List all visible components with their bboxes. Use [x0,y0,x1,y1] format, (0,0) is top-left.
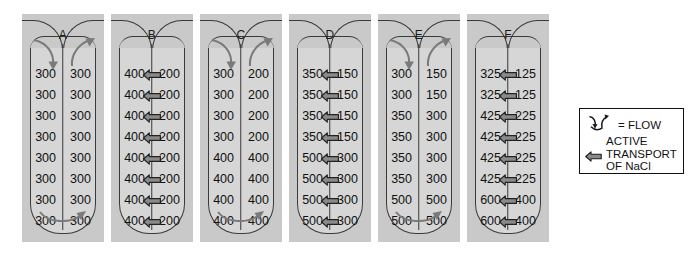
interstitium-value: 425 [467,152,508,165]
tubule-value: 125 [508,89,549,102]
tubule-value: 150 [419,89,460,102]
legend-flow-entry: = FLOW [586,114,661,135]
tubule-value: 300 [63,131,104,144]
interstitium-value: 500 [378,194,419,207]
concentration-row: 500500 [378,190,460,211]
interstitium-value: 400 [111,215,152,228]
interstitium-value: 300 [22,89,63,102]
tubule-value: 225 [508,152,549,165]
tubule-value: 300 [63,215,104,228]
interstitium-value: 350 [289,131,330,144]
concentration-row: 400200 [111,169,193,190]
interstitium-value: 400 [111,173,152,186]
interstitium-value: 500 [289,152,330,165]
concentration-row: 350300 [378,127,460,148]
tubule-value: 300 [419,173,460,186]
legend-active-transport-entry: ACTIVE TRANSPORT OF NaCl [585,135,677,173]
concentration-row: 500500 [378,211,460,232]
concentration-row: 425225 [467,169,549,190]
interstitium-value: 325 [467,68,508,81]
concentration-row: 325125 [467,85,549,106]
osmotic-gradient-diagram: A300300300300300300300300300300300300300… [0,0,699,257]
loop-panel-b: B400200400200400200400200400200400200400… [111,14,193,242]
tubule-value: 300 [63,173,104,186]
tubule-value: 200 [152,110,193,123]
concentration-row: 350150 [289,127,371,148]
interstitium-value: 500 [289,173,330,186]
tubule-value: 300 [63,68,104,81]
tubule-value: 400 [241,194,282,207]
interstitium-value: 400 [200,215,241,228]
concentration-rows: 3501503501503501503501505003005003005003… [289,64,371,232]
interstitium-value: 300 [200,110,241,123]
concentration-row: 400200 [111,211,193,232]
interstitium-value: 300 [22,215,63,228]
tubule-value: 300 [63,194,104,207]
tubule-value: 200 [152,194,193,207]
panel-letter-label: E [378,28,460,42]
tubule-value: 150 [330,110,371,123]
concentration-rows: 4002004002004002004002004002004002004002… [111,64,193,232]
flow-arrows-icon [586,114,614,135]
interstitium-value: 350 [378,110,419,123]
concentration-row: 500300 [289,148,371,169]
interstitium-value: 300 [200,131,241,144]
concentration-row: 400200 [111,106,193,127]
legend-active-line-3: OF NaCl [606,160,651,172]
interstitium-value: 350 [378,131,419,144]
tubule-value: 200 [152,215,193,228]
tubule-value: 150 [419,68,460,81]
tubule-value: 400 [508,215,549,228]
tubule-value: 500 [419,215,460,228]
loop-panel-d: D350150350150350150350150500300500300500… [289,14,371,242]
tubule-value: 150 [330,89,371,102]
concentration-row: 300300 [22,211,104,232]
tubule-value: 300 [63,89,104,102]
nacl-transport-arrow-icon [585,148,602,166]
concentration-row: 350300 [378,106,460,127]
tubule-value: 300 [419,110,460,123]
interstitium-value: 300 [200,68,241,81]
tubule-value: 300 [330,194,371,207]
tubule-value: 400 [508,194,549,207]
concentration-rows: 3001503001503503003503003503003503005005… [378,64,460,232]
tubule-value: 300 [330,173,371,186]
panel-strip: A300300300300300300300300300300300300300… [22,14,549,242]
interstitium-value: 600 [467,215,508,228]
tubule-value: 200 [152,152,193,165]
legend-active-transport-label: ACTIVE TRANSPORT OF NaCl [606,135,677,173]
loop-panel-c: C300200300200300200300200400400400400400… [200,14,282,242]
tubule-value: 200 [241,131,282,144]
concentration-rows: 3003003003003003003003003003003003003003… [22,64,104,232]
interstitium-value: 400 [111,110,152,123]
interstitium-value: 425 [467,131,508,144]
tubule-value: 300 [419,152,460,165]
tubule-value: 200 [241,89,282,102]
tubule-value: 400 [241,152,282,165]
concentration-row: 500300 [289,169,371,190]
concentration-row: 425225 [467,127,549,148]
loop-panel-f: F325125325125425225425225425225425225600… [467,14,549,242]
concentration-row: 300200 [200,64,282,85]
interstitium-value: 300 [200,89,241,102]
interstitium-value: 400 [111,131,152,144]
concentration-rows: 3002003002003002003002004004004004004004… [200,64,282,232]
panel-letter-label: F [467,28,549,42]
concentration-row: 600400 [467,211,549,232]
interstitium-value: 500 [289,215,330,228]
interstitium-value: 400 [111,68,152,81]
tubule-value: 200 [152,68,193,81]
interstitium-value: 400 [111,89,152,102]
interstitium-value: 350 [289,68,330,81]
concentration-row: 400400 [200,148,282,169]
concentration-row: 400400 [200,190,282,211]
concentration-row: 500300 [289,211,371,232]
tubule-value: 200 [152,131,193,144]
tubule-value: 300 [63,110,104,123]
interstitium-value: 400 [111,152,152,165]
legend-active-line-2: TRANSPORT [606,148,677,160]
concentration-row: 300300 [22,85,104,106]
concentration-row: 300300 [22,169,104,190]
interstitium-value: 350 [378,173,419,186]
interstitium-value: 400 [111,194,152,207]
